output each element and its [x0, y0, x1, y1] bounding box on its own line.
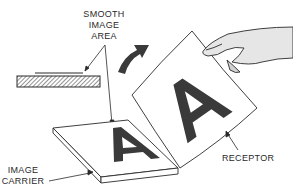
curved-arrow-icon [118, 45, 149, 74]
image-carrier-leader [49, 170, 93, 181]
cross-section-bar [17, 73, 100, 87]
label-line-image: IMAGE [89, 20, 120, 30]
label-line-smooth: SMOOTH [83, 9, 124, 19]
label-line-area: AREA [91, 31, 117, 41]
receptor-label: RECEPTOR [222, 153, 274, 163]
transfer-diagram: SMOOTH IMAGE AREA [0, 0, 293, 195]
image-carrier-label-line2: CARRIER [2, 176, 45, 186]
image-carrier-label-line1: IMAGE [8, 165, 39, 175]
receptor-leader [226, 131, 238, 150]
smooth-image-area-label: SMOOTH IMAGE AREA [83, 9, 124, 41]
